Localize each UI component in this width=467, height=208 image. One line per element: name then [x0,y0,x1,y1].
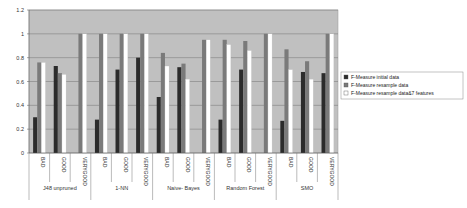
x-category-label: VERYGOOD [205,157,211,186]
bar [41,62,45,153]
x-category-label: GOOD [123,157,129,173]
x-group-label: 1-NN [115,185,128,191]
bar [181,64,185,153]
bar [243,41,247,153]
bar [116,70,120,153]
legend-label: F-Measure resample data&7 features [351,90,434,96]
x-category-label: GOOD [246,157,252,173]
bar [177,67,181,153]
bar [161,53,165,153]
bar [280,121,284,153]
bar [186,79,190,153]
bar [95,120,99,153]
bar [219,120,223,153]
x-category-label: VERYGOOD [329,157,335,186]
bar [99,34,103,153]
y-tick-label: 0.4 [16,102,24,108]
bar [83,34,87,153]
x-category-label: VERYGOOD [143,157,149,186]
x-category-label: BAD [226,157,232,168]
x-category-label: VERYGOOD [82,157,88,186]
bar [144,34,148,153]
x-category-label: BAD [102,157,108,168]
bar [322,73,326,153]
bar [78,34,82,153]
bar [165,66,169,153]
x-group-label: Naive- Bayes [167,185,200,191]
legend-label: F-Measure resample data [351,82,408,88]
x-group-label: Random Forest [226,185,264,191]
x-group-label: SMO [301,185,314,191]
bar [120,34,124,153]
bar [62,74,66,153]
bar [227,45,231,153]
x-category-label: GOOD [308,157,314,173]
x-category-label: GOOD [61,157,67,173]
bar [284,49,288,153]
x-category-label: BAD [288,157,294,168]
x-category-label: BAD [40,157,46,168]
bar [202,40,206,153]
x-axis: BADGOODVERYGOODBADGOODVERYGOODBADGOODVER… [29,153,338,200]
legend-swatch [344,91,348,95]
y-tick-label: 0.2 [16,126,24,132]
x-category-label: VERYGOOD [267,157,273,186]
bar [37,62,41,153]
bar [326,34,330,153]
bar [289,70,293,153]
x-group-label: J48 unpruned [43,185,77,191]
legend-label: F-Measure initial data [351,74,399,80]
bar [268,34,272,153]
y-tick-label: 0.8 [16,55,24,61]
y-axis: 00.20.40.60.811.2 [16,7,29,156]
y-tick-label: 1 [21,31,24,37]
legend-swatch [344,83,348,87]
bar [239,70,243,153]
bar [264,34,268,153]
bar [58,73,62,153]
bar [157,97,161,153]
bar [309,79,313,153]
bar [124,34,128,153]
bar [140,34,144,153]
bar [247,51,251,153]
bar [54,66,58,153]
bar [305,61,309,153]
y-tick-label: 0.6 [16,79,24,85]
y-tick-label: 0 [21,150,24,156]
bar [136,58,140,153]
x-category-label: GOOD [185,157,191,173]
y-tick-label: 1.2 [16,7,24,13]
bar [103,34,107,153]
legend-swatch [344,75,348,79]
bar-chart: 00.20.40.60.811.2 BADGOODVERYGOODBADGOOD… [0,0,467,208]
bar [33,117,37,153]
x-category-label: BAD [164,157,170,168]
bar [330,34,334,153]
legend: F-Measure initial dataF-Measure resample… [341,72,463,99]
bar [223,40,227,153]
bar [301,72,305,153]
bar [206,40,210,153]
